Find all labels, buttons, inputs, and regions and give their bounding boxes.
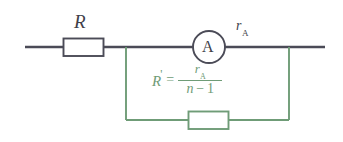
shunt-resistor-symbol (189, 112, 229, 130)
formula-lhs-prime: ' (160, 67, 162, 81)
ammeter-resistance-label: rA (236, 19, 248, 36)
formula-numerator: rA (190, 62, 211, 80)
shunt-resistance-formula: R' = rA n − 1 (152, 62, 222, 97)
formula-denominator: n − 1 (181, 81, 219, 97)
resistor-r-symbol (64, 39, 104, 57)
ammeter-resistance-symbol: r (236, 18, 241, 33)
formula-denominator-variable: n (186, 81, 193, 96)
formula-denominator-number: 1 (207, 81, 214, 96)
circuit-diagram: R A rA R' = rA n − 1 (0, 0, 343, 142)
resistor-r-label: R (74, 12, 86, 31)
formula-denominator-minus: − (196, 81, 204, 96)
ammeter-letter-label: A (202, 39, 214, 55)
ammeter-resistance-subscript: A (242, 28, 249, 38)
formula-fraction: rA n − 1 (178, 62, 222, 97)
formula-equals-sign: = (166, 72, 174, 88)
formula-numerator-subscript: A (200, 72, 206, 81)
formula-lhs: R' (152, 69, 163, 90)
